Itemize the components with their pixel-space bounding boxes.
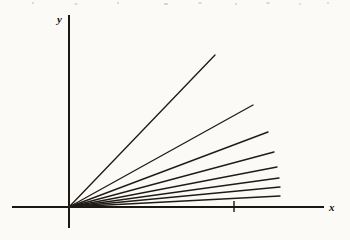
ray-4 <box>69 152 274 207</box>
y-axis-label: y <box>55 13 62 25</box>
ray-family <box>69 55 280 207</box>
coordinate-plot: y x <box>0 0 350 240</box>
ray-1 <box>69 55 215 207</box>
ray-6 <box>69 178 279 207</box>
ray-3 <box>69 132 268 207</box>
figure-canvas: y x <box>0 0 350 240</box>
x-axis-label: x <box>328 201 335 213</box>
